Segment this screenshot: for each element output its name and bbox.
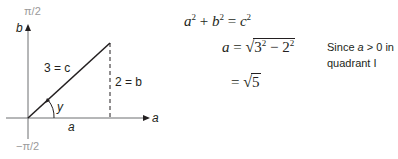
negative-pi-over-2-label: −π/2 [16,141,39,152]
hypotenuse-label: 3 = c [44,62,70,74]
eq2-base1: 3 [254,39,262,55]
equation-solve-a: a = √32 − 22 [222,38,295,55]
eq1-a: a [184,13,192,29]
eq1-plus: + [200,13,208,29]
eq3-equals: = [231,74,239,90]
eq2-equals: = [233,39,241,55]
eq1-a-exp: 2 [192,12,197,22]
equation-result: = √5 [231,73,261,90]
b-axis-label: b [16,22,23,34]
note-text-pre: Since [327,41,358,53]
note-line-2: quadrant I [327,55,394,71]
eq2-square-root: √32 − 22 [245,38,295,55]
eq2-exp2: 2 [290,38,295,48]
opposite-label: 2 = b [115,76,142,88]
eq2-a: a [222,39,230,55]
sign-note: Since a > 0 in quadrant I [327,39,394,71]
eq3-value: 5 [251,73,261,90]
angle-arc [48,100,54,118]
horizontal-axis-arrow-icon [143,115,150,121]
hypotenuse-line [28,43,110,118]
pi-over-2-label: π/2 [24,6,41,17]
eq2-base2: 2 [282,39,290,55]
note-text-post: > 0 in [364,41,394,53]
adjacent-label: a [68,121,75,133]
eq3-square-root: √5 [243,73,260,90]
eq1-c-exp: 2 [247,12,252,22]
eq1-c: c [240,13,247,29]
equation-pythagorean: a2 + b2 = c2 [184,14,251,29]
a-axis-label: a [152,112,159,124]
angle-label: y [57,101,63,113]
eq1-equals: = [228,13,236,29]
eq2-minus: − [270,39,278,55]
eq2-exp1: 2 [262,38,267,48]
note-line-1: Since a > 0 in [327,39,394,55]
eq1-b-exp: 2 [219,12,224,22]
vertical-axis-arrow-icon [25,24,31,31]
